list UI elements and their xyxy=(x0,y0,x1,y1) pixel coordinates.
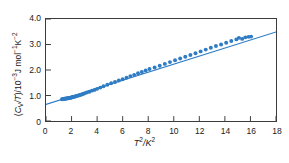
y-tick-label: 0 xyxy=(5,118,41,127)
y-axis-title-cv-symbol: C xyxy=(13,107,23,113)
x-tick-label: 18 xyxy=(272,127,281,136)
y-tick-label: 4.0 xyxy=(5,14,41,23)
x-tick-label: 0 xyxy=(43,127,48,136)
x-axis-ticks xyxy=(46,116,276,121)
x-tick-label: 16 xyxy=(246,127,255,136)
y-axis-title-cv-subscript: V xyxy=(17,103,24,107)
x-tick-label: 10 xyxy=(169,127,178,136)
x-tick-label: 6 xyxy=(120,127,125,136)
x-axis-title-over-k: /K xyxy=(143,138,152,148)
x-tick-label: 12 xyxy=(195,127,204,136)
y-tick-label: 2.0 xyxy=(5,66,41,75)
data-points xyxy=(60,35,253,102)
x-tick-label: 8 xyxy=(146,127,151,136)
x-axis-title-k-exponent: 2 xyxy=(152,136,156,143)
y-tick-label: 3.0 xyxy=(5,40,41,49)
x-axis-title: T2/K2 xyxy=(0,139,289,148)
plot-area xyxy=(45,18,277,122)
x-tick-label: 4 xyxy=(94,127,99,136)
y-axis-title-scale-exponent: −3 xyxy=(11,73,18,80)
figure-canvas: (CV/T)/10−3J mol−1K−2 T2/K2 01.02.03.04.… xyxy=(0,0,289,163)
y-axis-title-kelvin-exponent: −2 xyxy=(11,32,18,39)
y-tick-label: 1.0 xyxy=(5,92,41,101)
y-axis-ticks xyxy=(46,19,51,121)
plot-graphics xyxy=(46,19,276,121)
x-tick-label: 2 xyxy=(68,127,73,136)
x-tick-label: 14 xyxy=(221,127,230,136)
y-axis-title-open: ( xyxy=(13,113,23,116)
